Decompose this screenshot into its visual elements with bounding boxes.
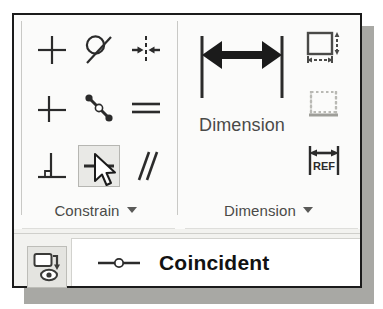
perpendicular-constraint-icon	[34, 32, 70, 68]
dimension-panel-label[interactable]: Dimension	[177, 195, 360, 229]
show-me-animation-button[interactable]	[27, 246, 67, 288]
reference-dimension-button[interactable]: REF	[298, 133, 350, 189]
symmetric-constraint-icon	[128, 32, 164, 68]
hit-area	[31, 87, 73, 129]
hit-area	[190, 19, 294, 115]
vertical-constraint-icon	[34, 148, 70, 184]
show-constraints-button[interactable]	[298, 77, 350, 133]
screenshot-root: Constrain	[0, 0, 383, 309]
constrain-button-smooth[interactable]	[75, 79, 122, 137]
show-constraints-icon	[304, 87, 344, 123]
dimension-panel-body: Dimension	[177, 15, 360, 195]
dimension-panel-label-text: Dimension	[224, 202, 296, 219]
tangent-constraint-icon	[81, 32, 117, 68]
mouse-pointer	[92, 152, 122, 192]
horizontal-constraint-icon	[34, 90, 70, 126]
dimension-button-label: Dimension	[199, 115, 285, 136]
equal-constraint-icon	[128, 90, 164, 126]
constrain-button-equal[interactable]	[123, 79, 170, 137]
hit-area	[78, 87, 120, 129]
dimension-button[interactable]: Dimension	[181, 19, 303, 189]
constraint-tooltip: Coincident	[71, 238, 360, 286]
constrain-button-horizontal[interactable]	[28, 79, 75, 137]
constrain-button-tangent[interactable]	[75, 21, 122, 79]
reference-dimension-icon: REF	[304, 142, 344, 180]
ribbon-bottom-rule	[14, 233, 360, 234]
constrain-panel-label-text: Constrain	[54, 202, 119, 219]
constrain-button-symmetric[interactable]	[123, 21, 170, 79]
hit-area	[125, 29, 167, 71]
dimension-icon	[190, 30, 294, 104]
constrain-panel-label[interactable]: Constrain	[14, 195, 177, 229]
dimension-side-buttons: REF	[298, 21, 350, 189]
tooltip-zone: Coincident	[14, 229, 360, 286]
constrain-button-perpendicular[interactable]	[28, 21, 75, 79]
chevron-down-icon	[127, 207, 137, 213]
smooth-g2-constraint-icon	[81, 90, 117, 126]
tooltip-title: Coincident	[159, 251, 270, 275]
coincident-icon	[96, 253, 142, 273]
hit-area	[125, 87, 167, 129]
constrain-button-vertical[interactable]	[28, 137, 75, 195]
show-me-eye-icon	[32, 251, 62, 283]
reference-dimension-label: REF	[313, 160, 335, 172]
hit-area	[31, 145, 73, 187]
chevron-down-icon	[303, 207, 313, 213]
constrain-panel: Constrain	[14, 15, 177, 229]
constrain-button-parallel[interactable]	[123, 137, 170, 195]
hit-area	[78, 29, 120, 71]
hit-area	[125, 145, 167, 187]
ribbon-frame: Constrain	[12, 13, 362, 288]
dimension-panel: Dimension	[177, 15, 360, 229]
auto-dimension-button[interactable]	[298, 21, 350, 77]
parallel-constraint-icon	[128, 148, 164, 184]
auto-dimension-icon	[304, 29, 344, 69]
hit-area	[31, 29, 73, 71]
ribbon: Constrain	[14, 15, 360, 229]
